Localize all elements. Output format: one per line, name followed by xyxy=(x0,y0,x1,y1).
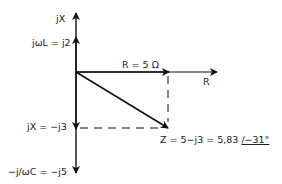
imaginary-axis-label: jX xyxy=(56,14,65,24)
impedance-arrow xyxy=(76,72,168,128)
real-axis-label: R xyxy=(203,77,210,87)
reactance-label: jX = −j3 xyxy=(27,122,67,132)
impedance-angle: /−31° xyxy=(241,134,269,145)
inductive-label: jωL = j2 xyxy=(32,38,71,48)
capacitive-label: −j/ωC = −j5 xyxy=(8,167,67,177)
resistance-label: R = 5 Ω xyxy=(122,60,159,70)
phasor-diagram xyxy=(0,0,282,184)
impedance-label: Z = 5−j3 = 5,83 /−31° xyxy=(160,135,269,145)
impedance-value: Z = 5−j3 = 5,83 xyxy=(160,134,241,145)
